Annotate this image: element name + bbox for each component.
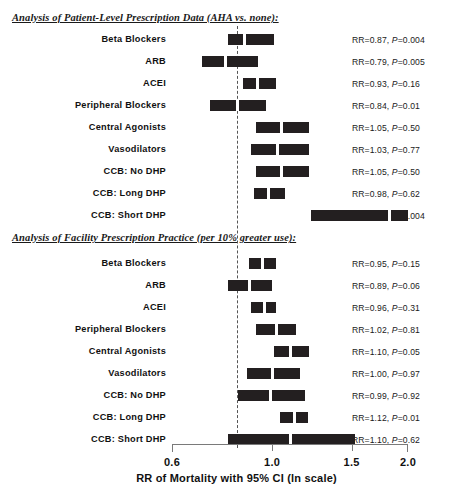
axis-tick-mark	[272, 444, 273, 451]
row-label: CCB: No DHP	[0, 166, 166, 176]
axis-tick-label: 1.5	[343, 456, 359, 468]
forest-plot-row: CCB: No DHPRR=1.05, P=0.50	[0, 162, 473, 184]
row-label: CCB: No DHP	[0, 390, 166, 400]
forest-plot-row: ARBRR=0.79, P=0.005	[0, 52, 473, 74]
forest-plot-figure: Analysis of Patient-Level Prescription D…	[0, 0, 473, 489]
row-label: CCB: Long DHP	[0, 412, 166, 422]
row-statistic: RR=0.95, P=0.15	[352, 259, 420, 269]
row-label: ARB	[0, 56, 166, 66]
row-label: Beta Blockers	[0, 258, 166, 268]
section-heading-facility-practice: Analysis of Facility Prescription Practi…	[12, 232, 296, 243]
axis-tick-mark	[352, 444, 353, 451]
row-statistic: RR=1.02, P=0.81	[352, 325, 420, 335]
row-label: Central Agonists	[0, 346, 166, 356]
forest-plot-row: Peripheral BlockersRR=0.84, P=0.01	[0, 96, 473, 118]
row-label: CCB: Short DHP	[0, 210, 166, 220]
row-statistic: RR=1.00, P=0.97	[352, 369, 420, 379]
row-label: CCB: Short DHP	[0, 434, 166, 444]
forest-plot-row: Central AgonistsRR=1.10, P=0.05	[0, 342, 473, 364]
row-statistic: RR=0.84, P=0.01	[352, 101, 420, 111]
row-statistic: RR=0.98, P=0.62	[352, 189, 420, 199]
forest-plot-row: Peripheral BlockersRR=1.02, P=0.81	[0, 320, 473, 342]
row-label: Peripheral Blockers	[0, 100, 166, 110]
row-statistic: RR=1.03, P=0.77	[352, 145, 420, 155]
forest-plot-row: ACEIRR=0.93, P=0.16	[0, 74, 473, 96]
section-heading-patient-level: Analysis of Patient-Level Prescription D…	[12, 12, 279, 23]
forest-plot-row: ARBRR=0.89, P=0.06	[0, 276, 473, 298]
row-label: CCB: Long DHP	[0, 188, 166, 198]
row-statistic: RR=0.96, P=0.31	[352, 303, 420, 313]
x-axis	[172, 444, 408, 452]
x-axis-title: RR of Mortality with 95% CI (ln scale)	[0, 472, 473, 484]
row-label: Peripheral Blockers	[0, 324, 166, 334]
forest-plot-row: CCB: Long DHPRR=1.12, P=0.01	[0, 408, 473, 430]
forest-plot-row: Beta BlockersRR=0.95, P=0.15	[0, 254, 473, 276]
forest-plot-row: VasodilatorsRR=1.00, P=0.97	[0, 364, 473, 386]
row-statistic: RR=0.93, P=0.16	[352, 79, 420, 89]
forest-plot-row: Central AgonistsRR=1.05, P=0.50	[0, 118, 473, 140]
row-label: Vasodilators	[0, 368, 166, 378]
row-label: ARB	[0, 280, 166, 290]
axis-tick-label: 0.6	[164, 456, 180, 468]
row-statistic: RR=1.82, P=0.004	[352, 211, 425, 221]
forest-plot-row: ACEIRR=0.96, P=0.31	[0, 298, 473, 320]
row-statistic: RR=1.05, P=0.50	[352, 123, 420, 133]
forest-plot-row: CCB: No DHPRR=0.99, P=0.92	[0, 386, 473, 408]
row-statistic: RR=0.79, P=0.005	[352, 57, 425, 67]
row-statistic: RR=0.89, P=0.06	[352, 281, 420, 291]
row-statistic: RR=1.12, P=0.01	[352, 413, 420, 423]
forest-plot-row: Beta BlockersRR=0.87, P=0.004	[0, 30, 473, 52]
axis-tick-label: 1.0	[264, 456, 280, 468]
forest-plot-row: VasodilatorsRR=1.03, P=0.77	[0, 140, 473, 162]
row-label: ACEI	[0, 302, 166, 312]
row-statistic: RR=1.10, P=0.05	[352, 347, 420, 357]
row-statistic: RR=0.87, P=0.004	[352, 35, 425, 45]
axis-tick-label: 2.0	[400, 456, 416, 468]
row-label: Beta Blockers	[0, 34, 166, 44]
forest-plot-row: CCB: Long DHPRR=0.98, P=0.62	[0, 184, 473, 206]
row-label: Central Agonists	[0, 122, 166, 132]
forest-plot-row: CCB: Short DHPRR=1.82, P=0.004	[0, 206, 473, 228]
row-statistic: RR=1.05, P=0.50	[352, 167, 420, 177]
row-label: Vasodilators	[0, 144, 166, 154]
row-statistic: RR=0.99, P=0.92	[352, 391, 420, 401]
row-label: ACEI	[0, 78, 166, 88]
